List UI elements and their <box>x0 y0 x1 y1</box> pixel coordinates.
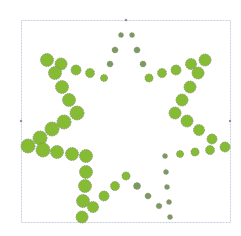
data-point <box>33 131 47 145</box>
data-point <box>56 81 69 94</box>
data-point <box>181 115 193 127</box>
scatter-chart <box>0 0 241 236</box>
data-point <box>171 65 181 75</box>
data-point <box>111 182 120 191</box>
axis-tick <box>229 120 231 122</box>
data-point <box>191 148 199 156</box>
data-point <box>158 69 167 78</box>
data-point <box>49 67 62 80</box>
data-point <box>134 47 140 53</box>
data-point <box>112 47 118 53</box>
data-point <box>186 59 197 70</box>
data-point <box>145 74 153 82</box>
data-point <box>194 125 205 136</box>
data-point <box>80 150 93 163</box>
data-point <box>21 139 35 153</box>
axis-tick <box>125 19 127 21</box>
data-point <box>165 185 170 190</box>
data-point <box>167 200 172 205</box>
data-point <box>184 81 196 93</box>
data-point <box>71 65 81 75</box>
data-point <box>51 146 64 159</box>
data-point <box>140 61 146 67</box>
data-point <box>107 61 113 67</box>
data-point <box>57 115 71 129</box>
data-point <box>66 148 79 161</box>
data-point <box>145 193 151 199</box>
data-point <box>88 202 99 213</box>
data-point <box>169 107 181 119</box>
series-small-dots <box>107 33 173 220</box>
data-point <box>163 154 168 159</box>
data-point <box>134 183 141 190</box>
data-point <box>101 75 108 82</box>
data-point <box>63 94 76 107</box>
data-point <box>119 33 124 38</box>
data-point <box>76 211 88 223</box>
data-point <box>220 142 230 152</box>
data-point <box>79 180 92 193</box>
data-point <box>199 54 211 66</box>
data-point <box>176 94 188 106</box>
data-point <box>99 191 109 201</box>
axis-tick <box>20 120 22 122</box>
data-point <box>168 215 173 220</box>
data-point <box>177 151 184 158</box>
data-point <box>130 33 135 38</box>
data-point <box>206 146 215 155</box>
data-point <box>86 69 95 78</box>
data-point <box>70 106 84 120</box>
data-point <box>192 67 204 79</box>
data-point <box>164 170 169 175</box>
data-point <box>122 172 130 180</box>
data-point <box>45 122 59 136</box>
data-point <box>156 203 162 209</box>
data-point <box>207 134 217 144</box>
series-large-dots <box>21 54 230 224</box>
data-point <box>41 54 54 67</box>
data-point <box>36 143 50 157</box>
data-point <box>80 166 93 179</box>
plot-frame <box>22 21 231 223</box>
